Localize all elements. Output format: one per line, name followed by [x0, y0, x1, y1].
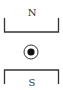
magnetic-field-diagram: N S	[0, 0, 63, 90]
north-pole-label: N	[25, 8, 39, 18]
south-pole-label: S	[25, 78, 39, 88]
north-pole-magnet	[5, 18, 59, 32]
wire-current-out-icon	[24, 45, 38, 59]
